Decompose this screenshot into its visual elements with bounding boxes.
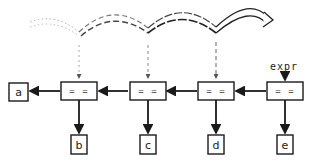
leaf-label: c — [145, 139, 151, 152]
leaf-node-d: d — [208, 135, 224, 154]
leaf-label: e — [282, 139, 289, 152]
operator-node-3: = = — [198, 82, 234, 100]
operator-label: = = — [206, 86, 225, 96]
leaf-label: a — [15, 86, 22, 99]
traversal-arcs — [30, 9, 273, 36]
expr-label: expr — [270, 61, 298, 72]
arc-arrowhead — [263, 12, 273, 27]
drop-lines — [79, 42, 285, 80]
operator-label: = = — [69, 86, 88, 96]
operator-label: = = — [275, 86, 294, 96]
operator-node-4: = = — [267, 82, 303, 100]
operator-node-1: = = — [61, 82, 97, 100]
leaf-node-e: e — [277, 135, 293, 154]
arc-dotted — [30, 19, 79, 32]
leaf-node-a: a — [9, 83, 28, 101]
leaf-node-b: b — [71, 135, 87, 154]
leaf-label: d — [213, 139, 220, 152]
diagram-canvas: expr a = = = = = = = = b c — [0, 0, 316, 163]
leaf-label: b — [76, 139, 83, 152]
leaf-edges — [79, 100, 285, 133]
leaf-node-c: c — [140, 135, 156, 154]
operator-label: = = — [138, 86, 157, 96]
operator-node-2: = = — [130, 82, 166, 100]
